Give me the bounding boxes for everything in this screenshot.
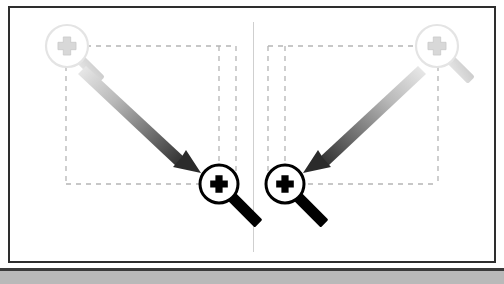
figure-frame [8,6,496,263]
panel-divider [253,22,254,252]
figure-canvas: Magnifier zoom-in comparison diagram Two… [0,0,504,284]
bottom-band [0,271,504,284]
